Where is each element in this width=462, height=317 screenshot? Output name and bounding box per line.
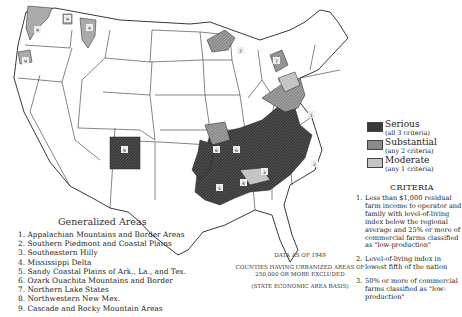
svg-text:2: 2	[313, 162, 316, 167]
criterion-text: Less than $1,000 residual farm income to…	[365, 194, 461, 249]
legend-item-serious: Serious (all 3 criteria)	[365, 120, 437, 138]
criterion-text: 50% or more of commercial farms classifi…	[365, 277, 458, 301]
svg-text:9: 9	[88, 26, 91, 31]
legend-label: Substantial	[385, 138, 437, 147]
area-item: 2. Southern Piedmont and Coastal Plains	[18, 239, 186, 248]
legend-item-substantial: Substantial (any 2 criteria)	[365, 138, 437, 156]
legend-label: Serious	[385, 120, 437, 129]
moderate-swatch	[367, 158, 383, 168]
legend-item-moderate: Moderate (any 1 criteria)	[365, 156, 437, 174]
svg-text:7: 7	[239, 49, 242, 54]
exclusion-note: COUNTIES HAVING URBANIZED AREAS OF 250,0…	[230, 264, 370, 278]
area-item: 1. Appalachian Mountains and Border Area…	[18, 230, 186, 239]
data-date: DATA AS OF 1949	[230, 252, 370, 259]
legend-sub: (all 3 criteria)	[385, 129, 437, 138]
legend: Serious (all 3 criteria) Substantial (an…	[365, 120, 437, 174]
criterion-text: Level-of-living index in lowest fifth of…	[365, 255, 447, 271]
area-item: 7. Northern Lake States	[18, 285, 186, 294]
criterion-number: 1.	[356, 195, 362, 203]
serious-swatch	[367, 122, 383, 132]
criterion: 1.Less than $1,000 residual farm income …	[355, 195, 462, 250]
svg-text:3: 3	[263, 170, 266, 175]
area-item: 8. Northwestern New Mex.	[18, 294, 186, 303]
map-notes: DATA AS OF 1949 COUNTIES HAVING URBANIZE…	[230, 252, 370, 295]
svg-text:9: 9	[24, 59, 27, 64]
basis-note: (STATE ECONOMIC AREA BASIS)	[230, 283, 370, 290]
area-item: 4. Mississippi Delta	[18, 258, 186, 267]
svg-text:1: 1	[310, 113, 313, 118]
generalized-areas-list: 1. Appalachian Mountains and Border Area…	[18, 230, 186, 313]
svg-text:9: 9	[36, 28, 39, 33]
criteria-list: 1.Less than $1,000 residual farm income …	[355, 195, 462, 308]
area-item: 9. Cascade and Rocky Mountain Areas	[18, 304, 186, 313]
criterion: 3.50% or more of commercial farms classi…	[355, 278, 462, 302]
svg-text:8: 8	[123, 148, 126, 153]
svg-text:5: 5	[218, 186, 221, 191]
svg-text:4: 4	[242, 181, 245, 186]
svg-text:7: 7	[275, 59, 278, 64]
svg-text:1: 1	[278, 78, 281, 83]
svg-text:9: 9	[66, 17, 69, 22]
legend-sub: (any 2 criteria)	[385, 147, 437, 156]
svg-text:6: 6	[215, 148, 218, 153]
legend-sub: (any 1 criteria)	[385, 165, 437, 174]
legend-label: Moderate	[385, 156, 437, 165]
criterion: 2.Level-of-living index in lowest fifth …	[355, 256, 462, 272]
svg-text:6: 6	[235, 148, 238, 153]
area-item: 3. Southeastern Hilly	[18, 248, 186, 257]
area-item: 5. Sandy Coastal Plains of Ark., La., an…	[18, 267, 186, 276]
area-item: 6. Ozark Ouachita Mountains and Border	[18, 276, 186, 285]
criteria-title: CRITERIA	[390, 183, 434, 192]
generalized-areas-title: Generalized Areas	[58, 216, 147, 227]
substantial-swatch	[367, 140, 383, 150]
